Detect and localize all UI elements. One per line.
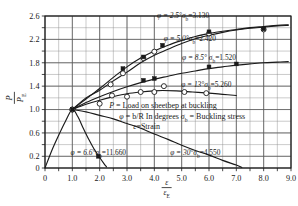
y-tick-labels: 00.20.61.01.41.82.22.6 (29, 12, 39, 173)
marker-filled-square (142, 78, 146, 82)
marker-filled-square (121, 67, 125, 71)
x-tick-label: 3.0 (122, 174, 132, 183)
marker-filled-square (142, 55, 146, 59)
legend-line-1: P = Load on sheetbep at buckling (108, 101, 217, 110)
x-axis-title: εεE (162, 178, 172, 199)
buckling-load-strain-chart: 01.02.03.04.05.06.07.08.09.0 00.20.61.01… (0, 0, 298, 206)
marker-open-circle (182, 90, 187, 95)
marker-open-circle (109, 93, 114, 98)
marker-open-circle (125, 94, 130, 99)
ann-phi-5p0: φ = 5.0°σb=2.420 (164, 34, 216, 45)
ann-phi-6p6: φ = 6.6°σb=11.660 (71, 148, 127, 159)
ann-phi-13: φ = 13°σb=5.260 (181, 80, 232, 91)
marker-open-circle (152, 90, 157, 95)
y-tick-label: 0.2 (29, 152, 39, 161)
chart-figure: 01.02.03.04.05.06.07.08.09.0 00.20.61.01… (0, 0, 298, 206)
y-tick-label: 0 (35, 164, 39, 173)
x-tick-label: 2.0 (95, 174, 105, 183)
x-tick-label: 4.0 (149, 174, 159, 183)
ann-phi-2p5: φ = 2.5°σb=3.130 (157, 11, 209, 22)
y-tick-label: 1.0 (29, 105, 39, 114)
legend-line-3: ε=Strain (133, 122, 160, 131)
marker-open-circle (204, 91, 209, 96)
data-curves (45, 25, 288, 168)
x-axis-numerator: ε (165, 178, 168, 187)
marker-filled-square (234, 62, 238, 66)
marker-open-circle (97, 101, 102, 106)
marker-open-circle (108, 82, 113, 87)
marker-filled-square (152, 77, 156, 81)
y-tick-label: 2.2 (29, 35, 39, 44)
legend-block: P = Load on sheetbep at bucklingφ = b/R … (108, 101, 245, 131)
x-tick-label: 7.0 (231, 174, 241, 183)
y-tick-label: 2.6 (29, 12, 39, 21)
x-tick-label: 5.0 (177, 174, 187, 183)
curve-series-4 (45, 109, 107, 168)
x-tick-label: 9.0 (286, 174, 296, 183)
marker-filled-square (70, 108, 74, 112)
x-tick-label: 1.0 (67, 174, 77, 183)
y-tick-label: 1.8 (29, 59, 39, 68)
marker-filled-square (207, 65, 211, 69)
x-tick-label: 8.0 (259, 174, 269, 183)
x-tick-labels: 01.02.03.04.05.06.07.08.09.0 (43, 174, 296, 183)
x-axis-denominator: εE (163, 188, 170, 199)
y-axis-denominator: PE (16, 93, 27, 103)
series-annotations: φ = 2.5°σb=3.130φ = 5.0°σb=2.420φ = 8.5°… (71, 11, 237, 159)
y-tick-label: 1.4 (29, 82, 39, 91)
marker-open-circle (138, 90, 143, 95)
marker-open-circle (120, 71, 125, 76)
x-tick-label: 0 (43, 174, 47, 183)
y-axis-numerator: P (5, 95, 14, 101)
marker-filled-square (161, 43, 165, 47)
x-tick-label: 6.0 (204, 174, 214, 183)
y-axis-title: PPE (5, 92, 27, 104)
y-tick-label: 0.6 (29, 129, 39, 138)
marker-filled-square (262, 27, 266, 31)
marker-open-circle (152, 49, 157, 54)
marker-open-circle (161, 84, 166, 89)
